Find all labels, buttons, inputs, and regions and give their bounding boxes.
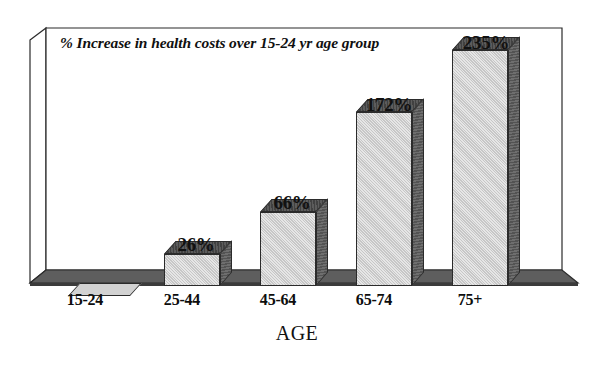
bar-front-face-65-74: [356, 112, 412, 286]
x-tick-label-25-44: 25-44: [133, 291, 231, 309]
bar-front-face-75-plus: [452, 50, 508, 286]
bar-chart-figure: % Increase in health costs over 15-24 yr…: [0, 0, 594, 370]
value-label-25-44: 26%: [161, 234, 231, 256]
x-axis-title: AGE: [0, 322, 594, 345]
bar-group-75-plus[interactable]: [452, 50, 526, 286]
value-label-45-64: 66%: [257, 192, 327, 214]
x-tick-label-45-64: 45-64: [229, 291, 327, 309]
bar-group-25-44[interactable]: [164, 254, 238, 286]
x-tick-label-15-24: 15-24: [36, 291, 134, 309]
bar-group-15-24[interactable]: [68, 285, 138, 286]
plot-area: 26% 66% 172% 235%: [46, 28, 562, 286]
bar-side-face-75-plus: [508, 36, 520, 286]
x-tick-label-75-plus: 75+: [421, 291, 519, 309]
bar-front-face-45-64: [260, 212, 316, 286]
value-label-65-74: 172%: [349, 94, 429, 116]
bar-group-45-64[interactable]: [260, 212, 334, 286]
value-label-75-plus: 235%: [446, 32, 526, 54]
bar-group-65-74[interactable]: [356, 112, 430, 286]
bar-side-face-65-74: [412, 98, 424, 286]
x-tick-label-65-74: 65-74: [325, 291, 423, 309]
bar-front-face-25-44: [164, 254, 220, 286]
